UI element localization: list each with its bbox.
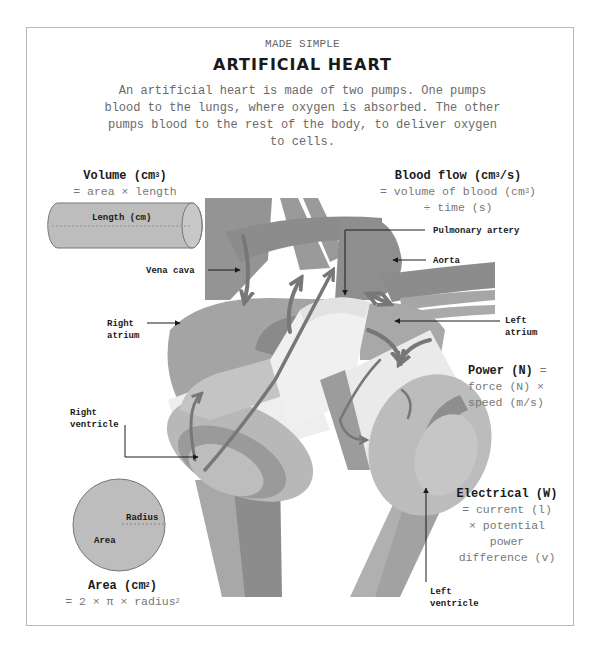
power-heading: Power (N) = — [468, 363, 568, 379]
power-equation-line2: speed (m/s) — [468, 395, 568, 411]
volume-formula: Volume (cm3) = area × length — [40, 168, 210, 200]
label-right-ventricle: Rightventricle — [70, 407, 119, 431]
volume-heading: Volume (cm3) — [40, 168, 210, 184]
circle-radius-label: Radius — [126, 512, 158, 524]
volume-equation: = area × length — [40, 184, 210, 200]
electrical-equation-line2: × potential — [452, 518, 562, 534]
electrical-equation-line4: difference (v) — [452, 550, 562, 566]
electrical-heading: Electrical (W) — [452, 486, 562, 502]
electrical-equation-line1: = current (l) — [452, 502, 562, 518]
label-right-atrium: Rightatrium — [107, 318, 139, 342]
label-aorta: Aorta — [433, 255, 460, 267]
blood-flow-equation-line2: ÷ time (s) — [368, 200, 548, 216]
power-formula: Power (N) = force (N) × speed (m/s) — [468, 363, 568, 411]
blood-flow-heading: Blood flow (cm3/s) — [368, 168, 548, 184]
area-heading: Area (cm2) — [55, 578, 190, 594]
label-left-atrium: Leftatrium — [505, 315, 537, 339]
power-equation-line1: force (N) × — [468, 379, 568, 395]
kicker-text: MADE SIMPLE — [0, 38, 605, 50]
cylinder-length-label: Length (cm) — [92, 212, 151, 224]
blood-flow-formula: Blood flow (cm3/s) = volume of blood (cm… — [368, 168, 548, 216]
electrical-formula: Electrical (W) = current (l) × potential… — [452, 486, 562, 566]
intro-paragraph: An artificial heart is made of two pumps… — [100, 83, 505, 151]
label-vena-cava: Vena cava — [146, 265, 195, 277]
label-left-ventricle: Leftventricle — [430, 586, 479, 610]
page-title: ARTIFICIAL HEART — [0, 55, 605, 74]
circle-area-label: Area — [94, 535, 116, 547]
blood-flow-equation-line1: = volume of blood (cm3) — [368, 184, 548, 200]
area-circle — [73, 479, 165, 571]
area-formula: Area (cm2) = 2 × π × radius2 — [55, 578, 190, 610]
area-equation: = 2 × π × radius2 — [55, 594, 190, 610]
label-pulmonary-artery: Pulmonary artery — [433, 225, 519, 237]
electrical-equation-line3: power — [452, 534, 562, 550]
volume-cylinder — [48, 203, 202, 248]
